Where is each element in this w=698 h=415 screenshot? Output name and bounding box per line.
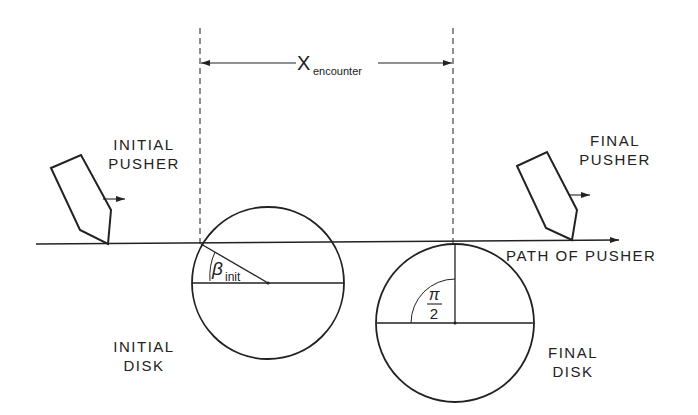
beta-symbol: β [211,258,223,279]
final-disk-label: FINAL DISK [537,343,609,381]
x-encounter-symbol: X [297,52,310,74]
x-encounter-subscript: encounter [313,65,362,77]
path-of-pusher-label: PATH OF PUSHER [506,246,666,265]
initial-pusher-label: INITIAL PUSHER [104,135,184,173]
final-pusher-label: FINAL PUSHER [575,131,655,169]
final-disk: π 2 [376,244,534,402]
pi-numerator: π [429,286,440,303]
final-pusher-shape [517,152,577,240]
initial-disk-label: INITIAL DISK [104,337,184,375]
pi-denominator: 2 [430,305,438,322]
initial-pusher-shape [51,155,111,244]
beta-subscript: init [225,270,241,284]
path-of-pusher-line [36,240,619,244]
initial-disk: β init [192,207,344,359]
